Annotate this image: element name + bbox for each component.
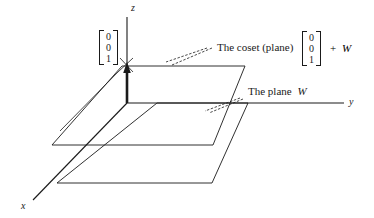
coset-vector: 0 0 1 [302,31,321,66]
coset-plane-shape [52,66,245,145]
plus-sign: + [330,42,336,54]
x-axis-label: x [21,201,25,211]
leader-line-coset [166,48,212,65]
vector-entries: 0 0 1 [104,30,113,65]
vector-entry-2: 1 [106,53,111,64]
coset-callout-label: The coset (plane) [217,42,293,53]
coset-vector-entries: 0 0 1 [307,31,316,66]
subspace-symbol-w: W [342,42,351,54]
coset-vector-entry-0: 0 [309,32,314,43]
bracket-right-close [316,31,321,66]
coset-diagram-figure: z y x 0 0 1 The coset (plane) 0 0 1 + W … [0,0,374,218]
subspace-plane-w-shape [57,103,248,183]
plane-w-callout: The plane W [248,86,307,97]
coset-sum-expression: + W [330,42,351,54]
axis-lines [33,17,344,200]
plane-w-callout-symbol: W [297,85,306,97]
y-axis-label: y [349,97,353,107]
bracket-left-close [113,30,118,65]
plane-w-callout-prefix: The plane [248,85,292,97]
vector-entry-1: 0 [106,42,111,53]
leader-line-plane-w [205,98,243,113]
coset-vector-entry-2: 1 [309,54,314,65]
z-axis-label: z [131,3,135,13]
translation-vector: 0 0 1 [99,30,118,65]
x-axis [33,103,127,200]
vector-entry-0: 0 [106,31,111,42]
coset-vector-entry-1: 0 [309,43,314,54]
